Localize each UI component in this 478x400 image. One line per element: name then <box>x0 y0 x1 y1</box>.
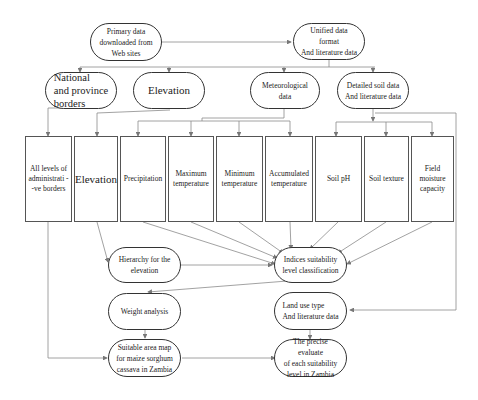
field-moisture-box: Field moisture capacity <box>411 136 454 222</box>
soil-ph-box: Soil pH <box>315 136 362 222</box>
accumulated-temperature-box: Accumulated temperature <box>265 136 313 222</box>
soil-data-node: Detailed soil data And literature data <box>337 72 409 109</box>
land-use-label: Land use type And literature data <box>282 300 338 322</box>
weight-analysis-label: Weight analysis <box>121 306 169 317</box>
unified-data-label: Unified data format And literature data <box>300 25 358 58</box>
admin-borders-label: All levels of administrati - -ve borders <box>28 164 68 194</box>
meteorological-label: Meteorological data <box>257 80 313 102</box>
field-moisture-label: Field moisture capacity <box>419 164 445 194</box>
accumulated-temperature-label: Accumulated temperature <box>269 169 309 189</box>
elevation-label: Elevation <box>148 84 190 97</box>
land-use-node: Land use type And literature data <box>274 292 347 330</box>
elevation-box: Elevation <box>74 136 118 222</box>
max-temperature-label: Maximum temperature <box>173 169 209 189</box>
min-temperature-label: Minimum temperature <box>222 169 258 189</box>
indices-classification-label: Indices suitability level classification <box>282 254 338 276</box>
precise-evaluate-node: The precise evaluate of each suitability… <box>274 339 347 377</box>
primary-data-node: Primary data downloaded from Web sites <box>90 23 162 61</box>
indices-classification-node: Indices suitability level classification <box>274 247 347 283</box>
borders-node: National and province borders <box>45 72 117 109</box>
suitable-area-map-node: Suitable area map for maize sorghum cass… <box>108 339 181 377</box>
elevation-node: Elevation <box>133 72 205 109</box>
elevation-box-label: Elevation <box>75 174 117 184</box>
precipitation-label: Precipitation <box>124 174 162 184</box>
min-temperature-box: Minimum temperature <box>216 136 263 222</box>
suitable-area-map-label: Suitable area map for maize sorghum cass… <box>116 342 173 375</box>
hierarchy-elevation-node: Hierarchy for the elevation <box>108 247 181 283</box>
unified-data-node: Unified data format And literature data <box>293 23 365 60</box>
meteorological-node: Meteorological data <box>250 72 320 109</box>
hierarchy-elevation-label: Hierarchy for the elevation <box>119 254 171 276</box>
precise-evaluate-label: The precise evaluate of each suitability… <box>281 336 340 380</box>
soil-ph-label: Soil pH <box>327 174 350 184</box>
soil-texture-label: Soil texture <box>369 174 404 184</box>
soil-texture-box: Soil texture <box>364 136 409 222</box>
borders-label: National and province borders <box>54 71 109 110</box>
max-temperature-box: Maximum temperature <box>168 136 214 222</box>
admin-borders-box: All levels of administrati - -ve borders <box>25 136 72 222</box>
primary-data-label: Primary data downloaded from Web sites <box>99 26 152 59</box>
weight-analysis-node: Weight analysis <box>108 293 181 330</box>
soil-data-label: Detailed soil data And literature data <box>345 80 401 102</box>
precipitation-box: Precipitation <box>120 136 166 222</box>
